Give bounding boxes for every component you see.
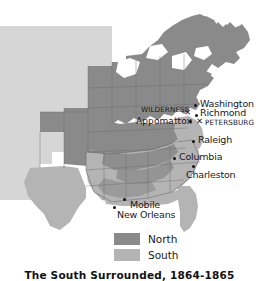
legend-item-north: North	[114, 233, 179, 245]
north-swatch	[114, 233, 140, 245]
legend-label-north: North	[148, 233, 177, 245]
battle-marker-petersburg: ✕	[196, 118, 203, 125]
battle-label-appomattox: Appomattox	[136, 117, 192, 126]
legend-label-south: South	[148, 249, 179, 261]
map-legend: North South	[114, 233, 179, 261]
legend-item-south: South	[114, 249, 179, 261]
south-swatch	[114, 249, 140, 261]
city-label-charleston: Charleston	[186, 170, 235, 180]
battle-label-wilderness: WILDERNESS	[141, 106, 189, 113]
battle-label-petersburg: PETERSBURG	[205, 119, 254, 126]
city-label-columbia: Columbia	[179, 152, 222, 162]
city-label-richmond: Richmond	[200, 108, 246, 118]
map-caption: The South Surrounded, 1864-1865	[0, 269, 259, 281]
city-label-raleigh: Raleigh	[198, 135, 232, 145]
city-label-new-orleans: New Orleans	[117, 210, 175, 220]
